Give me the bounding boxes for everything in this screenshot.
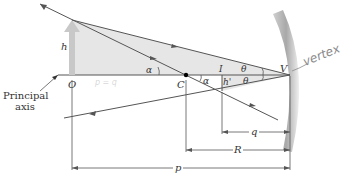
p-label: p <box>175 162 182 173</box>
center-point <box>184 73 188 77</box>
alpha-label-2: α <box>203 76 209 86</box>
arrow-icon <box>186 148 192 152</box>
theta-label-bottom: θ <box>243 76 249 86</box>
arrow-icon <box>72 166 78 170</box>
object-point-label: O <box>68 79 76 90</box>
handwritten-vertex-annotation: vertex <box>301 41 343 69</box>
principal-axis-label-line1: Principal <box>3 90 49 101</box>
alpha-arc-2 <box>200 75 201 81</box>
image-height-label: h' <box>223 77 231 87</box>
q-label: q <box>251 126 257 137</box>
object-height-label: h <box>61 41 67 52</box>
arrow-icon <box>249 103 256 107</box>
arrow-icon <box>284 166 290 170</box>
image-point-label: I <box>218 64 223 74</box>
center-label: C <box>177 79 185 90</box>
alpha-label-1: α <box>146 65 152 75</box>
principal-axis-label-line2: axis <box>15 101 35 112</box>
handwritten-faint-annotation: p = q <box>94 78 117 87</box>
vertex-label: V <box>280 63 289 74</box>
arrow-icon <box>222 130 228 134</box>
mirror-ray-diagram: Principal axis O C I V h h' α α θ θ q R … <box>0 0 356 181</box>
theta-label-top: θ <box>241 64 247 74</box>
concave-mirror <box>273 10 299 152</box>
object-arrow-shaft <box>69 30 75 75</box>
R-label: R <box>233 144 242 155</box>
